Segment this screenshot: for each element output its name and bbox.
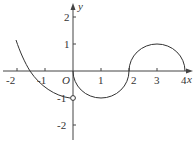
y-tick-label-neg1: -1 xyxy=(57,92,66,104)
upper-semicircle xyxy=(129,44,185,71)
x-tick-label-2: 2 xyxy=(131,74,137,86)
origin-label: O xyxy=(62,74,70,86)
x-axis-label: x xyxy=(186,73,192,85)
function-graph: y x O -2 -1 1 2 3 4 2 1 -1 -2 xyxy=(0,0,196,145)
x-tick-label-3: 3 xyxy=(154,74,160,86)
y-tick-label-2: 2 xyxy=(64,11,70,23)
open-point-marker xyxy=(71,96,76,101)
y-axis-arrow-icon xyxy=(71,3,76,10)
x-tick-label-4: 4 xyxy=(181,74,187,86)
x-tick-label-1: 1 xyxy=(98,74,104,86)
y-tick-label-1: 1 xyxy=(64,38,70,50)
x-tick-label-neg2: -2 xyxy=(6,74,15,86)
left-curve xyxy=(16,40,70,98)
y-axis-label: y xyxy=(77,0,83,12)
y-tick-label-neg2: -2 xyxy=(57,119,66,131)
